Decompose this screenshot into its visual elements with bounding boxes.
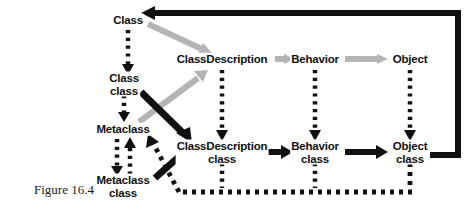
edge-metaclass-to-metaclass-class <box>111 139 123 176</box>
node-behavior-class: Behavior class <box>290 140 340 165</box>
edge-behavior-to-object <box>345 54 388 64</box>
node-metaclass-class: Metaclass class <box>95 174 150 199</box>
edge-class-to-class-class <box>122 30 134 75</box>
node-class-class: Class class <box>108 72 140 97</box>
edge-behavior-to-behavior-class <box>309 70 321 141</box>
edge-cd-class-to-behavior-class <box>266 145 293 159</box>
edge-object-to-object-class <box>404 70 416 141</box>
edge-metaclass-class-to-metaclass <box>124 137 136 175</box>
node-classdescription-class: ClassDescription class <box>176 140 269 165</box>
edge-class-class-to-metaclass <box>118 95 130 122</box>
node-object-class: Object class <box>392 140 429 165</box>
node-object: Object <box>392 53 429 66</box>
node-behavior: Behavior <box>290 53 340 66</box>
figure-caption: Figure 16.4 <box>34 182 94 198</box>
edge-classdescription-to-cd-class <box>216 70 228 141</box>
edge-behavior-class-to-object-class <box>345 145 388 159</box>
node-classdescription: ClassDescription <box>176 53 269 66</box>
node-metaclass: Metaclass <box>95 123 150 136</box>
gray-edges-group <box>139 24 388 122</box>
figure-16-4: Class Class class Metaclass Metaclass cl… <box>0 0 475 215</box>
node-class: Class <box>112 14 144 27</box>
edge-class-to-classdescription <box>148 24 213 54</box>
